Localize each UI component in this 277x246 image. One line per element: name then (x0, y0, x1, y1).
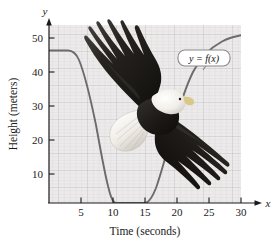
y-tick-label: 10 (32, 168, 44, 180)
y-axis-title: Height (meters) (7, 78, 20, 151)
x-axis-title: Time (seconds) (110, 225, 181, 238)
graph-svg: y = f(x) y x 5 10 15 20 25 30 (0, 0, 277, 246)
callout-label: y = f(x) (188, 53, 220, 65)
x-tick-label: 15 (140, 206, 152, 218)
x-tick-label: 20 (172, 206, 184, 218)
y-tick-label: 30 (32, 100, 44, 112)
y-tick-label: 40 (32, 66, 44, 78)
x-tick-label: 30 (236, 206, 248, 218)
x-tick-label: 25 (204, 206, 216, 218)
x-axis-variable: x (265, 197, 271, 209)
y-tick-label: 20 (32, 134, 44, 146)
eagle-eye (179, 98, 181, 100)
x-tick-label: 10 (108, 206, 120, 218)
x-tick-label: 5 (78, 206, 84, 218)
y-axis-variable: y (42, 5, 48, 17)
eagle-height-graph-figure: y = f(x) y x 5 10 15 20 25 30 (0, 0, 277, 246)
y-tick-label: 50 (32, 32, 44, 44)
